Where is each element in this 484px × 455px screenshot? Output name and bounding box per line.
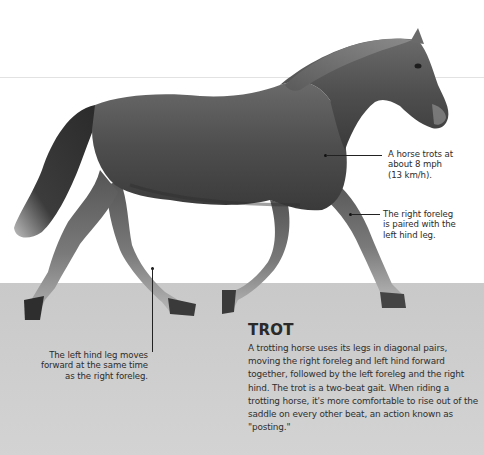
speed-callout-line-2: about 8 mph <box>388 159 480 169</box>
foreleg-callout-line-1: The right foreleg <box>383 209 479 219</box>
body <box>92 82 347 211</box>
hindleg-leader-line <box>152 268 153 352</box>
speed-callout-line-3: (13 km/h). <box>388 170 480 180</box>
speed-callout: A horse trots at about 8 mph (13 km/h). <box>388 149 480 180</box>
foreleg-leader-line <box>351 214 380 215</box>
hindleg-callout-line-1: The left hind leg moves <box>40 350 148 360</box>
section-title: TROT <box>248 321 294 339</box>
hindleg-callout-line-3: as the right foreleg. <box>40 371 148 381</box>
speed-leader-line <box>326 155 382 156</box>
speed-callout-line-1: A horse trots at <box>388 149 480 159</box>
hindleg-callout-line-2: forward at the same time <box>40 360 148 370</box>
left-foreleg <box>222 200 289 314</box>
foreleg-callout-line-3: left hind leg. <box>383 230 479 240</box>
hindleg-callout: The left hind leg moves forward at the s… <box>40 350 148 381</box>
section-description: A trotting horse uses its legs in diagon… <box>248 342 480 434</box>
foreleg-callout: The right foreleg is paired with the lef… <box>383 209 479 240</box>
foreleg-callout-line-2: is paired with the <box>383 219 479 229</box>
